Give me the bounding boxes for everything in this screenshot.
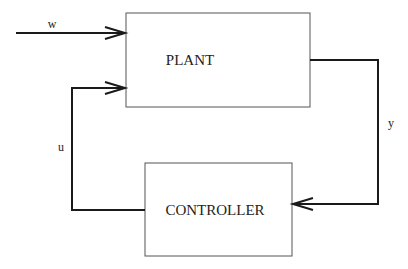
plant-box (126, 13, 310, 107)
plant-block: PLANT (126, 13, 310, 107)
signal-w: w (16, 17, 125, 39)
w-label: w (48, 17, 57, 31)
y-label: y (388, 116, 394, 130)
u-label: u (58, 140, 64, 154)
controller-block: CONTROLLER (145, 163, 292, 256)
controller-label: CONTROLLER (165, 202, 264, 218)
plant-label: PLANT (166, 52, 214, 68)
block-diagram: PLANT CONTROLLER w u y (0, 0, 408, 269)
